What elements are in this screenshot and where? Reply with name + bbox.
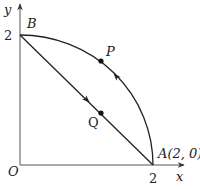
point-a-label: A(2, 0) (157, 146, 200, 161)
point-p-label: P (105, 44, 115, 59)
diagram-canvas: y x 2 2 O B P Q A(2, 0) (0, 0, 200, 189)
y-tick-label: 2 (4, 28, 12, 43)
x-axis-label: x (176, 169, 184, 184)
x-tick-label: 2 (149, 171, 157, 186)
point-q (98, 110, 103, 115)
origin-label: O (8, 164, 19, 179)
y-axis-label: y (3, 2, 12, 17)
point-b-label: B (26, 16, 37, 31)
point-q-label: Q (88, 115, 99, 130)
point-p (98, 58, 103, 63)
